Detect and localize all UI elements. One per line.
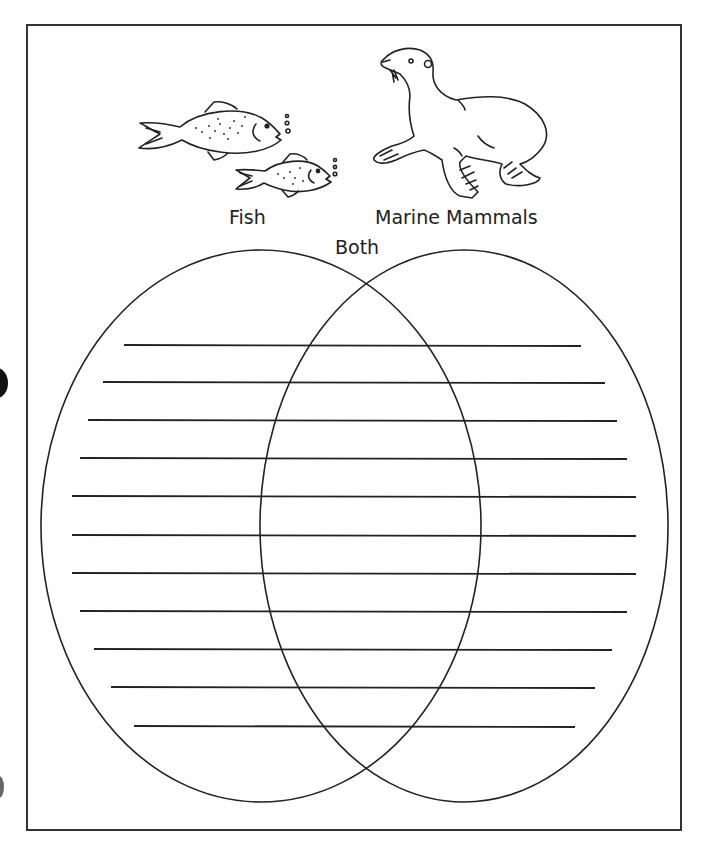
fish-illustration <box>236 154 337 197</box>
fish-illustration <box>139 102 290 160</box>
writing-line <box>111 687 595 688</box>
writing-line <box>72 573 636 574</box>
venn-right-ellipse <box>260 250 668 802</box>
writing-line <box>80 611 627 612</box>
worksheet-art <box>0 0 712 853</box>
writing-line <box>72 535 636 536</box>
writing-line <box>72 496 636 497</box>
writing-line <box>124 345 581 346</box>
label-both: Both <box>335 236 379 258</box>
writing-lines <box>72 345 636 727</box>
label-fish: Fish <box>229 206 266 228</box>
writing-line <box>88 420 617 421</box>
writing-line <box>80 458 627 459</box>
writing-line <box>103 382 605 383</box>
label-marine-mammals: Marine Mammals <box>375 206 538 228</box>
writing-line <box>94 649 612 650</box>
writing-line <box>134 726 575 727</box>
sea-lion-illustration <box>374 48 547 198</box>
venn-left-ellipse <box>41 250 481 802</box>
